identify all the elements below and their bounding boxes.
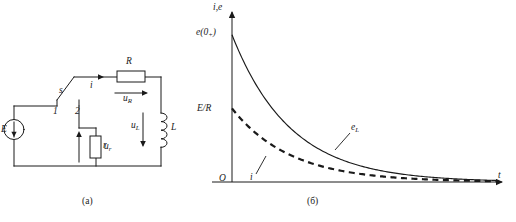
current-i-arrowhead bbox=[98, 74, 104, 80]
figure-root: E s 1 2 ur r R uR uL L i (a) bbox=[0, 0, 516, 222]
uL-arrowhead bbox=[140, 141, 146, 147]
resistor-r-body bbox=[90, 136, 101, 158]
voltage-uR-label: uR bbox=[123, 94, 132, 105]
curve-i bbox=[232, 108, 496, 181]
y-tick-label-e0plus: e(0+) bbox=[196, 28, 216, 39]
switch-contact-2-label: 2 bbox=[75, 107, 80, 117]
panel-b-caption: (б) bbox=[307, 196, 318, 206]
current-i-label: i bbox=[90, 81, 93, 91]
annotation-label-e-L: eL bbox=[351, 123, 359, 134]
resistor-R-body bbox=[117, 71, 145, 82]
annotation-leader-e-L bbox=[335, 133, 350, 150]
plot-svg bbox=[190, 0, 516, 222]
resistor-R-label: R bbox=[126, 57, 132, 67]
uR-arrowhead bbox=[142, 90, 148, 96]
annotation-leader-i bbox=[256, 156, 266, 174]
graph-panel: i,e t O e(0+) E/R eL i (б) bbox=[190, 0, 516, 222]
inductor-L-label: L bbox=[171, 123, 176, 133]
x-axis-label: t bbox=[498, 170, 501, 180]
y-tick-label-E-over-R: E/R bbox=[197, 104, 211, 114]
y-axis-label: i,e bbox=[213, 2, 222, 12]
circuit-panel: E s 1 2 ur r R uR uL L i (a) bbox=[0, 0, 190, 222]
panel-a-caption: (a) bbox=[82, 196, 93, 206]
circuit-schematic-svg bbox=[0, 0, 190, 222]
resistor-r-label: r bbox=[103, 141, 107, 151]
voltage-uL-label: uL bbox=[131, 121, 140, 132]
source-E-label: E bbox=[1, 125, 7, 135]
ur-arrowhead bbox=[76, 131, 82, 137]
origin-label: O bbox=[219, 173, 226, 183]
switch-s-label: s bbox=[59, 86, 63, 96]
curve-e-L bbox=[232, 35, 496, 181]
inductor-L-coil bbox=[161, 113, 167, 147]
annotation-label-i: i bbox=[250, 173, 253, 183]
switch-contact-1-label: 1 bbox=[53, 107, 58, 117]
